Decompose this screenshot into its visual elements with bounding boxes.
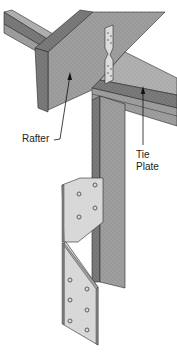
illustration (0, 0, 177, 363)
rafter-tie-diagram: Rafter Tie Plate (0, 0, 177, 363)
rafter-label: Rafter (22, 133, 49, 144)
tie-plate-label-line1: Tie (136, 149, 150, 160)
tie-plate-label-line2: Plate (136, 161, 159, 172)
